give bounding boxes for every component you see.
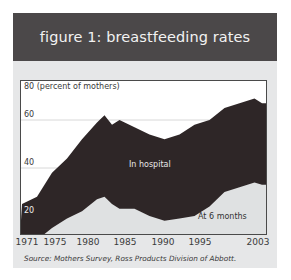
y-tick-20: 20 (24, 206, 34, 215)
series-label-at-6-months: At 6 months (198, 212, 247, 221)
x-tick-1995: 1995 (189, 237, 212, 247)
y-tick-40: 40 (24, 158, 34, 167)
figure-card: figure 1: breastfeeding rates 80 (percen… (13, 13, 277, 268)
x-tick-1971: 1971 (16, 237, 39, 247)
source-note: Source: Mothers Survey, Ross Products Di… (24, 254, 236, 263)
y-axis-label-80: 80 (percent of mothers) (24, 82, 120, 91)
x-tick-1980: 1980 (77, 237, 100, 247)
series-label-in-hospital: In hospital (129, 160, 171, 169)
x-tick-1975: 1975 (44, 237, 67, 247)
y-tick-60: 60 (24, 110, 34, 119)
figure-title: figure 1: breastfeeding rates (13, 13, 277, 61)
x-tick-1990: 1990 (152, 237, 175, 247)
x-tick-1985: 1985 (114, 237, 137, 247)
plot-area: 80 (percent of mothers) 60 40 20 In hosp… (20, 80, 267, 235)
x-tick-2003: 2003 (247, 237, 270, 247)
